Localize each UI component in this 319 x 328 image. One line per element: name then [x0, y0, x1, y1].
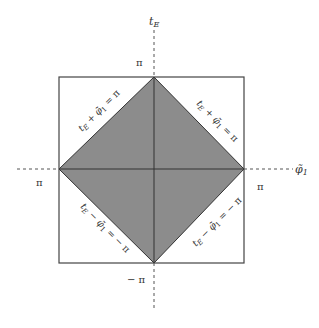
vertical-axis-label: tE [149, 15, 159, 29]
tick-top-pi: π [136, 57, 143, 68]
shaded-diamond-region [59, 77, 244, 263]
diamond-diagram: tE φ̃1 π − π π π tE + φ̃1 = π tE + φ̃1 =… [0, 0, 319, 328]
tick-bottom-minus-pi: − π [127, 274, 146, 285]
tick-right-pi: π [257, 181, 264, 192]
tick-left-pi: π [36, 177, 43, 188]
horizontal-axis-label: φ̃1 [295, 163, 308, 177]
